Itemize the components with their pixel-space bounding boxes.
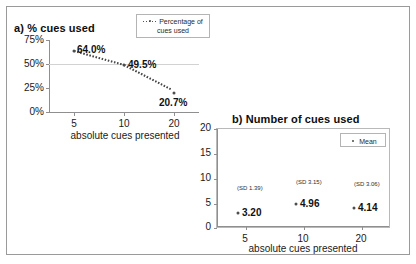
cropped-caption-text — [4, 0, 304, 2]
panel-a-xaxis-title: absolute cues presented — [40, 130, 210, 141]
panel-b-legend: Mean — [340, 133, 386, 147]
panel-b-ytick-mark-20 — [214, 129, 217, 130]
panel-a-datalabel-1: 64.0% — [77, 44, 105, 55]
panel-a-plot-area: 64.0% 49.5% 20.7% — [49, 40, 199, 113]
panel-b-ytick-label-5: 5 — [186, 197, 211, 208]
panel-b-ytick-mark-5 — [214, 204, 217, 205]
panel-a-xtick-label-10: 10 — [106, 118, 142, 129]
panel-b-datapoint-3 — [353, 207, 356, 210]
panel-a-datalabel-2: 49.5% — [128, 59, 156, 70]
panel-b-xtick-mark-5 — [246, 227, 247, 230]
panel-a-ytick-mark-25 — [46, 88, 49, 89]
panel-a-legend: Percentage of cues used — [136, 14, 210, 38]
point-marker-icon — [349, 139, 357, 144]
panel-a-ytick-label-0: 0% — [6, 106, 44, 117]
panel-b-title: b) Number of cues used — [232, 113, 360, 125]
panel-b-xtick-mark-10 — [304, 227, 305, 230]
panel-a-datapoint-1 — [73, 50, 76, 53]
panel-a-xtick-label-5: 5 — [56, 118, 92, 129]
panel-a-ytick-mark-50 — [46, 64, 49, 65]
panel-a-ytick-mark-75 — [46, 40, 49, 41]
panel-b-plot-area: Mean 3.20 4.96 4.14 (SD 1.39) (SD 3.15) … — [216, 128, 390, 228]
panel-b-ytick-mark-15 — [214, 154, 217, 155]
panel-a-xtick-mark-5 — [74, 113, 75, 116]
figure-root: a) % cues used Percentage of cues used — [0, 0, 416, 264]
panel-b-datalabel-2: 4.96 — [300, 198, 319, 209]
panel-a-datalabel-3: 20.7% — [159, 97, 187, 108]
panel-b-legend-label: Mean — [359, 137, 377, 146]
panel-a-ytick-label-75: 75% — [6, 34, 44, 45]
panel-b-datalabel-1: 3.20 — [242, 207, 261, 218]
panel-b-datapoint-2 — [295, 203, 298, 206]
panel-b-ytick-label-10: 10 — [186, 172, 211, 183]
panel-b-xaxis-title: absolute cues presented — [215, 243, 391, 254]
panel-a-xtick-mark-20 — [174, 113, 175, 116]
panel-a-y-axis — [49, 40, 50, 113]
panel-a-ytick-label-25: 25% — [6, 82, 44, 93]
panel-b-y-axis — [217, 129, 218, 227]
panel-a-legend-label-line2: cues used — [140, 26, 206, 35]
panel-a-ytick-label-50: 50% — [6, 58, 44, 69]
panel-a-datapoint-3 — [173, 92, 176, 95]
panel-a-legend-label-line1: Percentage of — [159, 17, 203, 26]
panel-b-sd-label-2: (SD 3.15) — [296, 179, 322, 185]
panel-a-title: a) % cues used — [14, 22, 95, 34]
panel-b-sd-label-3: (SD 3.06) — [354, 181, 380, 187]
panel-a-ytick-mark-0 — [46, 112, 49, 113]
panel-b-datapoint-1 — [237, 212, 240, 215]
panel-b-datalabel-3: 4.14 — [358, 202, 377, 213]
panel-b-ytick-label-20: 20 — [186, 122, 211, 133]
panel-b-legend-row: Mean — [344, 137, 382, 146]
panel-a-xtick-mark-10 — [124, 113, 125, 116]
panel-b-x-axis — [217, 226, 389, 227]
panel-b-xtick-mark-20 — [362, 227, 363, 230]
panel-a-datapoint-2 — [123, 64, 126, 67]
panel-b-ytick-mark-10 — [214, 179, 217, 180]
panel-b-ytick-label-15: 15 — [186, 147, 211, 158]
panel-b-ytick-label-0: 0 — [186, 221, 211, 232]
panel-b-ytick-mark-0 — [214, 228, 217, 229]
panel-a-legend-row: Percentage of — [140, 17, 206, 26]
dotted-line-marker-icon — [143, 19, 157, 24]
panel-b-sd-label-1: (SD 1.39) — [237, 185, 263, 191]
